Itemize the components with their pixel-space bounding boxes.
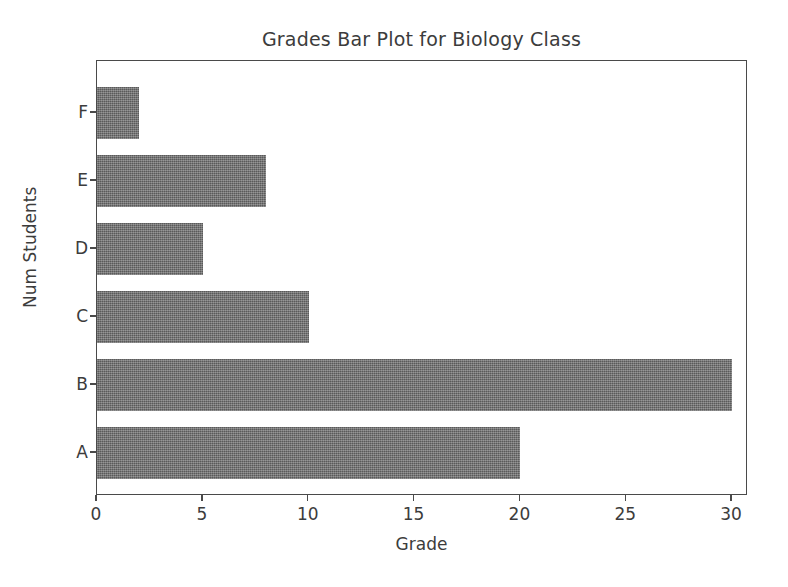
bar-fill-d <box>97 223 203 275</box>
bar-c <box>97 291 747 343</box>
y-tick-mark-f <box>90 111 96 112</box>
x-tick-mark-10 <box>307 495 308 501</box>
bar-fill-c <box>97 291 309 343</box>
y-tick-label-c: C <box>48 306 88 326</box>
y-tick-label-e: E <box>48 170 88 190</box>
x-tick-label-30: 30 <box>720 504 742 524</box>
bar-fill-b <box>97 359 732 411</box>
y-tick-mark-a <box>90 451 96 452</box>
chart-title: Grades Bar Plot for Biology Class <box>96 28 747 50</box>
bar-e <box>97 155 747 207</box>
x-tick-label-5: 5 <box>196 504 207 524</box>
y-axis-label: Num Students <box>20 188 40 308</box>
x-tick-label-25: 25 <box>614 504 636 524</box>
y-tick-mark-e <box>90 179 96 180</box>
y-tick-label-b: B <box>48 374 88 394</box>
x-tick-mark-20 <box>519 495 520 501</box>
x-tick-label-15: 15 <box>403 504 425 524</box>
x-tick-mark-5 <box>201 495 202 501</box>
y-tick-label-f: F <box>48 102 88 122</box>
plot-area <box>96 60 747 495</box>
x-tick-mark-25 <box>625 495 626 501</box>
x-tick-mark-30 <box>730 495 731 501</box>
x-tick-label-0: 0 <box>91 504 102 524</box>
y-tick-mark-c <box>90 315 96 316</box>
y-tick-label-d: D <box>48 238 88 258</box>
x-tick-label-10: 10 <box>297 504 319 524</box>
y-tick-mark-b <box>90 383 96 384</box>
bar-d <box>97 223 747 275</box>
x-axis-label: Grade <box>96 534 747 554</box>
bar-fill-f <box>97 87 139 139</box>
y-tick-mark-d <box>90 247 96 248</box>
x-tick-mark-0 <box>95 495 96 501</box>
bar-fill-a <box>97 427 520 479</box>
x-tick-mark-15 <box>413 495 414 501</box>
bar-b <box>97 359 747 411</box>
bar-fill-e <box>97 155 266 207</box>
bar-f <box>97 87 747 139</box>
bar-a <box>97 427 747 479</box>
x-tick-label-20: 20 <box>509 504 531 524</box>
y-tick-label-a: A <box>48 442 88 462</box>
chart-figure: Grades Bar Plot for Biology Class 051015… <box>0 0 788 587</box>
